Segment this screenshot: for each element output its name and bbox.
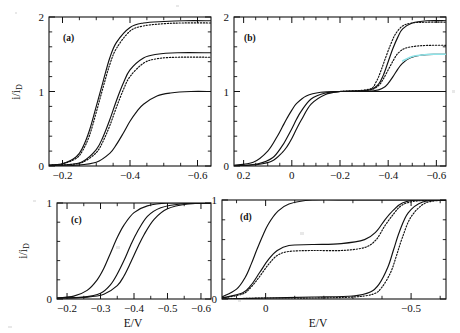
scan-speck (238, 300, 241, 302)
x-tick-label: −0.2 (53, 169, 73, 181)
x-tick-label: −0.5 (157, 302, 177, 314)
scan-speck (15, 12, 17, 14)
scan-speck (116, 246, 120, 249)
y-tick-label: 2 (224, 11, 230, 23)
y-tick-label: 1 (39, 86, 45, 98)
scan-speck (300, 232, 304, 235)
panel-label: (c) (71, 215, 82, 226)
y-tick-label: 1 (224, 86, 230, 98)
x-tick-label: −0.4 (378, 169, 398, 181)
scan-speck (452, 90, 455, 93)
y-tick-label: 0 (47, 293, 53, 305)
y-tick-label: 2 (39, 11, 45, 23)
scan-speck (33, 200, 36, 202)
x-tick-label: −0.4 (120, 169, 140, 181)
scan-speck (8, 326, 12, 328)
x-tick-label: −0.5 (401, 302, 421, 314)
x-tick-label: 0.2 (237, 169, 251, 181)
panel-label: (a) (63, 33, 74, 44)
y-tick-label: 0 (212, 293, 218, 305)
y-tick-label: 0 (39, 160, 45, 172)
scan-speck (176, 5, 179, 7)
x-axis-title-right: E/V (309, 317, 328, 329)
x-tick-label: 0 (289, 169, 295, 181)
x-tick-label: −0.6 (426, 169, 446, 181)
panel-label: (d) (240, 212, 252, 223)
figure-container: (a)(b)(c)(d) −0.2−0.4−0.60.20−0.2−0.4−0.… (0, 0, 460, 333)
x-axis-title-left: E/V (124, 317, 143, 329)
voltammogram-figure: (a)(b)(c)(d) −0.2−0.4−0.60.20−0.2−0.4−0.… (0, 0, 460, 333)
x-tick-label: −0.2 (57, 302, 77, 314)
y-tick-label: 1 (47, 197, 53, 209)
x-tick-label: −0.6 (191, 302, 211, 314)
x-tick-label: −0.2 (330, 169, 350, 181)
x-tick-label: 0 (263, 302, 269, 314)
y-tick-label: 0 (224, 160, 230, 172)
panel-label: (b) (244, 33, 256, 44)
x-tick-label: −0.4 (124, 302, 144, 314)
x-tick-label: −0.6 (188, 169, 208, 181)
y-tick-label: 1 (212, 194, 218, 206)
x-tick-label: −0.3 (91, 302, 111, 314)
